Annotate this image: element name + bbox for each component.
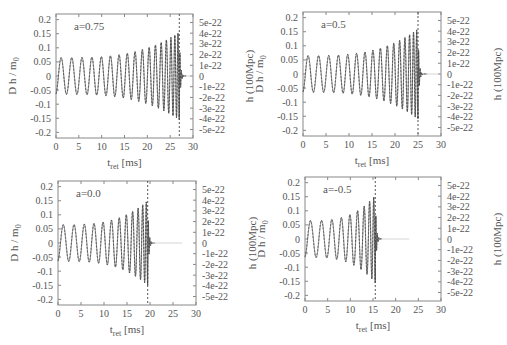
y-tick-label-left: -0.1 bbox=[35, 99, 51, 110]
y-tick-label-left: 0 bbox=[46, 71, 51, 82]
y-tick-label-right: 0 bbox=[447, 234, 452, 245]
y-tick-label-left: 0.05 bbox=[283, 219, 301, 230]
y-tick-label-left: 0.15 bbox=[283, 191, 301, 202]
y-axis-label-right: h (100Mpc) bbox=[491, 48, 504, 101]
y-tick-label-right: 5e-22 bbox=[199, 17, 222, 28]
x-tick-label: 5 bbox=[79, 308, 84, 319]
y-tick-label-left: -0.05 bbox=[30, 85, 51, 96]
y-tick-label-right: -4e-22 bbox=[199, 113, 225, 124]
y-tick-label-right: 1e-22 bbox=[447, 223, 470, 234]
y-axis-label-left: D h / m0 bbox=[253, 55, 268, 92]
y-tick-label-right: 4e-22 bbox=[447, 191, 470, 202]
y-axis-label-left: D h / m0 bbox=[8, 224, 23, 261]
y-tick-label-left: -0.2 bbox=[37, 294, 53, 305]
x-tick-label: 20 bbox=[391, 304, 401, 315]
x-tick-label: 10 bbox=[344, 139, 354, 150]
y-tick-label-right: 0 bbox=[447, 69, 452, 80]
x-tick-label: 15 bbox=[367, 139, 377, 150]
y-tick-label-right: -1e-22 bbox=[447, 79, 473, 90]
x-tick-label: 10 bbox=[345, 304, 355, 315]
y-tick-label-right: 3e-22 bbox=[199, 38, 222, 49]
y-tick-label-right: -3e-22 bbox=[199, 103, 225, 114]
x-tick-label: 30 bbox=[188, 141, 198, 152]
x-axis-label: tret [ms] bbox=[356, 319, 390, 334]
y-tick-label-right: -3e-22 bbox=[202, 270, 228, 281]
x-tick-label: 0 bbox=[301, 139, 306, 150]
x-tick-label: 25 bbox=[165, 141, 175, 152]
x-tick-label: 0 bbox=[303, 304, 308, 315]
y-tick-label-left: -0.05 bbox=[32, 252, 53, 263]
y-tick-label-right: -2e-22 bbox=[447, 255, 473, 266]
x-tick-label: 15 bbox=[122, 308, 132, 319]
chart-panel-3: 0510152025300.20.150.10.050-0.05-0.1-0.1… bbox=[249, 163, 505, 337]
y-tick-label-left: -0.2 bbox=[284, 290, 300, 301]
x-tick-label: 5 bbox=[324, 139, 329, 150]
chart-panel-0: 0510152025300.20.150.10.050-0.05-0.1-0.1… bbox=[0, 0, 257, 174]
y-tick-label-right: 3e-22 bbox=[447, 201, 470, 212]
chart-panel-1: 0510152025300.20.150.10.050-0.05-0.1-0.1… bbox=[247, 0, 505, 172]
x-tick-label: 20 bbox=[145, 308, 155, 319]
x-tick-label: 5 bbox=[325, 304, 330, 315]
y-axis-label-right: h (100Mpc) bbox=[491, 213, 504, 266]
y-tick-label-right: -3e-22 bbox=[447, 266, 473, 277]
y-axis-label-left: D h / m0 bbox=[6, 57, 21, 94]
y-tick-label-right: 1e-22 bbox=[199, 60, 222, 71]
y-axis-label-left: D h / m0 bbox=[255, 220, 270, 257]
y-tick-label-left: 0.2 bbox=[39, 14, 52, 25]
y-tick-label-left: -0.15 bbox=[30, 113, 51, 124]
x-tick-label: 20 bbox=[142, 141, 152, 152]
x-axis-label: tret [ms] bbox=[110, 323, 144, 338]
waveform-dashed bbox=[58, 202, 155, 285]
y-tick-label-left: 0.15 bbox=[34, 28, 52, 39]
y-tick-label-left: 0 bbox=[48, 238, 53, 249]
y-tick-label-right: 4e-22 bbox=[447, 26, 470, 37]
y-tick-label-right: 4e-22 bbox=[199, 28, 222, 39]
y-tick-label-left: 0.05 bbox=[34, 56, 52, 67]
y-tick-label-left: 0.15 bbox=[36, 195, 54, 206]
y-tick-label-right: -1e-22 bbox=[199, 81, 225, 92]
plot-frame bbox=[56, 14, 193, 138]
x-tick-label: 15 bbox=[120, 141, 130, 152]
y-tick-label-right: 3e-22 bbox=[447, 36, 470, 47]
y-tick-label-right: 5e-22 bbox=[447, 180, 470, 191]
y-tick-label-right: -1e-22 bbox=[202, 248, 228, 259]
y-tick-label-left: -0.15 bbox=[277, 111, 298, 122]
x-tick-label: 5 bbox=[76, 141, 81, 152]
y-tick-label-right: -5e-22 bbox=[202, 291, 228, 302]
y-tick-label-right: 0 bbox=[202, 238, 207, 249]
y-tick-label-left: -0.15 bbox=[279, 276, 300, 287]
y-tick-label-left: 0.2 bbox=[286, 12, 299, 23]
x-tick-label: 10 bbox=[97, 141, 107, 152]
spin-annotation: a=-0.5 bbox=[323, 183, 352, 195]
y-tick-label-right: -3e-22 bbox=[447, 101, 473, 112]
y-tick-label-left: 0.1 bbox=[39, 42, 52, 53]
y-tick-label-left: -0.15 bbox=[32, 280, 53, 291]
y-tick-label-right: -2e-22 bbox=[202, 259, 228, 270]
y-tick-label-left: -0.1 bbox=[37, 266, 53, 277]
y-tick-label-right: 3e-22 bbox=[202, 205, 225, 216]
y-tick-label-left: 0.1 bbox=[288, 205, 301, 216]
x-tick-label: 25 bbox=[413, 304, 423, 315]
y-tick-label-right: 2e-22 bbox=[447, 47, 470, 58]
y-tick-label-left: -0.1 bbox=[284, 262, 300, 273]
chart-panel-2: 0510152025300.20.150.10.050-0.05-0.1-0.1… bbox=[2, 167, 260, 341]
y-tick-label-right: 4e-22 bbox=[202, 195, 225, 206]
y-tick-label-right: 2e-22 bbox=[447, 212, 470, 223]
y-tick-label-left: 0.1 bbox=[286, 40, 299, 51]
y-tick-label-right: -4e-22 bbox=[202, 280, 228, 291]
y-tick-label-left: 0.2 bbox=[41, 181, 54, 192]
y-tick-label-right: -2e-22 bbox=[447, 90, 473, 101]
y-tick-label-right: 1e-22 bbox=[202, 227, 225, 238]
y-tick-label-right: -2e-22 bbox=[199, 92, 225, 103]
x-tick-label: 30 bbox=[436, 139, 446, 150]
y-tick-label-left: 0.05 bbox=[281, 54, 299, 65]
y-tick-label-right: -5e-22 bbox=[199, 124, 225, 135]
x-tick-label: 30 bbox=[436, 304, 446, 315]
x-tick-label: 20 bbox=[390, 139, 400, 150]
y-tick-label-right: -4e-22 bbox=[447, 276, 473, 287]
y-tick-label-left: 0 bbox=[295, 234, 300, 245]
x-tick-label: 25 bbox=[168, 308, 178, 319]
y-tick-label-left: 0 bbox=[293, 69, 298, 80]
y-tick-label-left: -0.2 bbox=[282, 125, 298, 136]
y-tick-label-left: -0.05 bbox=[277, 83, 298, 94]
